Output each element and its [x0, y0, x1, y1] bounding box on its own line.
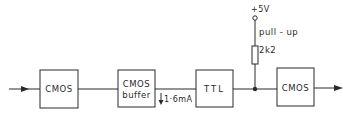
cmos-buffer-label-line2: buffer: [118, 91, 155, 100]
ttl-block-label: TTL: [196, 85, 233, 94]
pullup-label: pull - up: [259, 28, 298, 37]
cmos-buffer-label-line1: CMOS: [118, 80, 155, 89]
current-arrow-icon: [159, 100, 164, 105]
input-arrow-icon: [21, 86, 29, 92]
resistor-symbol: [252, 46, 258, 64]
current-annotation: 1·6mA: [164, 96, 193, 104]
resistor-value-label: 2k2: [259, 46, 276, 55]
cmos-block-1-label: CMOS: [40, 85, 78, 94]
junction-dot: [253, 87, 257, 91]
supply-label: +5V: [251, 6, 270, 14]
output-arrow-icon: [334, 85, 343, 91]
cmos-block-2-label: CMOS: [277, 84, 314, 93]
supply-terminal-icon: [253, 16, 257, 20]
